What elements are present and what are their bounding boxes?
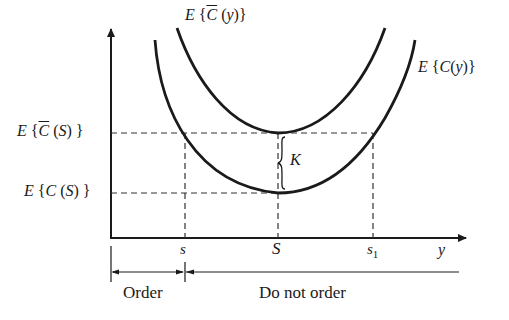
inventory-cost-diagram: E {C (y)} E {C(y)} E {C (S) } E {C (S) }… bbox=[0, 0, 509, 320]
order-arrow-right bbox=[176, 270, 184, 275]
tick-label-s1: s1 bbox=[367, 241, 378, 260]
k-brace bbox=[278, 137, 285, 189]
order-arrow-left bbox=[111, 270, 119, 275]
curve-expected-cost bbox=[155, 40, 415, 193]
label-lower-curve: E {C(y)} bbox=[418, 58, 476, 76]
tick-label-s: s bbox=[180, 241, 186, 258]
label-upper-curve: E {C (y)} bbox=[185, 6, 247, 24]
x-axis-label: y bbox=[438, 241, 445, 259]
curve-expected-cost-with-order bbox=[177, 28, 385, 133]
tick-label-S: S bbox=[272, 239, 281, 259]
label-upper-level: E {C (S) } bbox=[17, 122, 83, 140]
region-order-label: Order bbox=[123, 283, 163, 303]
label-lower-level: E {C (S) } bbox=[24, 182, 90, 200]
diagram-canvas bbox=[0, 0, 509, 320]
label-k: K bbox=[290, 151, 301, 169]
region-do-not-order-label: Do not order bbox=[259, 283, 346, 303]
